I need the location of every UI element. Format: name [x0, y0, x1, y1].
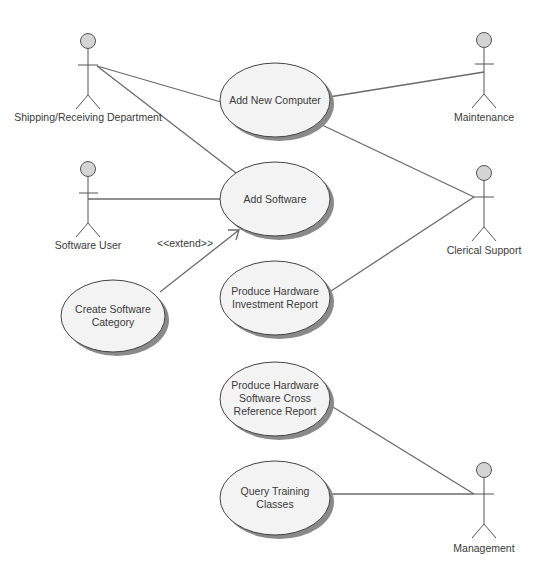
actor-label: Clerical Support — [447, 244, 522, 256]
use-case-label-line2: Software Cross — [239, 392, 311, 404]
actor-head-icon — [477, 463, 492, 478]
actor-head-icon — [81, 162, 96, 177]
extend-label: <<extend>> — [157, 237, 213, 249]
use-case-label: Add Software — [243, 193, 306, 205]
use-case-label-line2: Investment Report — [232, 298, 318, 310]
actor-label: Maintenance — [454, 111, 514, 123]
use-case-label-line1: Create Software — [75, 303, 151, 315]
actor-label: Software User — [55, 239, 122, 251]
use-case-label-line2: Classes — [256, 498, 293, 510]
actor-head-icon — [477, 33, 492, 48]
use-case-label-line3: Reference Report — [234, 405, 317, 417]
use-case-label-line1: Produce Hardware — [231, 379, 319, 391]
use-case-label: Add New Computer — [229, 94, 321, 106]
use-case-label-line2: Category — [92, 316, 135, 328]
actor-label: Shipping/Receiving Department — [14, 111, 162, 123]
actor-head-icon — [477, 166, 492, 181]
use-case-label-line1: Produce Hardware — [231, 285, 319, 297]
use-case-diagram: <<extend>> Add New Computer Add Software… — [0, 0, 545, 573]
actor-head-icon — [81, 34, 96, 49]
actor-label: Management — [453, 542, 514, 554]
use-case-label-line1: Query Training — [241, 485, 310, 497]
